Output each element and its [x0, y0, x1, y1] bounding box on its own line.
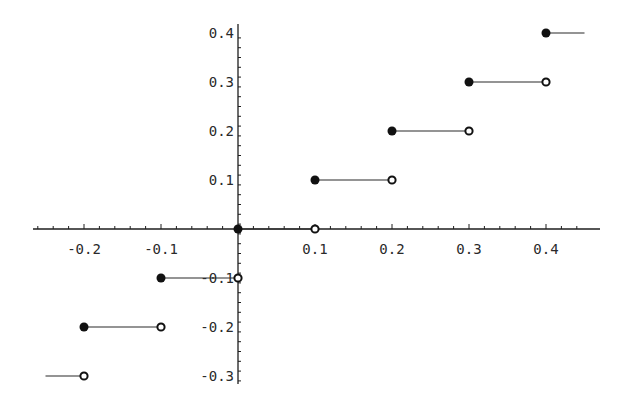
closed-dot-marker	[311, 176, 320, 185]
y-tick-label: 0.1	[209, 172, 234, 188]
open-dot-marker	[157, 323, 164, 330]
closed-dot-marker	[157, 274, 166, 283]
x-tick-label: 0.3	[456, 241, 481, 257]
y-tick-label: 0.2	[209, 123, 234, 139]
y-tick-label: -0.2	[200, 319, 234, 335]
open-dot-marker	[234, 274, 241, 281]
closed-dot-marker	[542, 29, 551, 38]
axis-tick-labels: -0.2-0.10.10.20.30.40.40.30.20.1-0.1-0.2…	[67, 25, 559, 384]
open-dot-marker	[311, 225, 318, 232]
x-tick-label: -0.1	[144, 241, 178, 257]
step-function-chart: -0.2-0.10.10.20.30.40.40.30.20.1-0.1-0.2…	[0, 0, 629, 408]
x-tick-label: 0.2	[379, 241, 404, 257]
closed-dot-marker	[465, 78, 474, 87]
open-dot-marker	[388, 176, 395, 183]
y-tick-label: 0.3	[209, 74, 234, 90]
closed-dot-marker	[234, 225, 243, 234]
step-segments	[46, 33, 585, 376]
open-dot-marker	[542, 78, 549, 85]
x-tick-label: 0.4	[533, 241, 558, 257]
y-tick-label: 0.4	[209, 25, 234, 41]
x-tick-label: 0.1	[302, 241, 327, 257]
closed-dot-marker	[80, 323, 89, 332]
axes	[33, 24, 600, 384]
y-tick-label: -0.3	[200, 368, 234, 384]
axis-ticks	[38, 38, 577, 381]
x-tick-label: -0.2	[67, 241, 101, 257]
closed-dot-marker	[388, 127, 397, 136]
open-dot-marker	[80, 372, 87, 379]
open-dot-marker	[465, 127, 472, 134]
